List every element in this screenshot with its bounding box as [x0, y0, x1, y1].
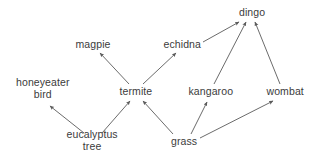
node-label: dingo — [239, 6, 265, 18]
node-label-line2: tree — [67, 141, 118, 153]
edge-grass-to-wombat — [200, 101, 273, 138]
edge-kangaroo-to-dingo — [214, 22, 246, 84]
node-magpie[interactable]: magpie — [76, 39, 111, 51]
node-eucalyptus-tree[interactable]: eucalyptustree — [67, 129, 118, 153]
edge-termite-to-magpie — [100, 53, 129, 84]
edge-wombat-to-dingo — [255, 22, 280, 84]
node-label: kangaroo — [189, 85, 234, 97]
node-label: termite — [120, 85, 153, 97]
node-label: echidna — [164, 38, 201, 50]
node-wombat[interactable]: wombat — [267, 86, 304, 98]
node-echidna[interactable]: echidna — [164, 39, 201, 51]
node-label-line2: bird — [16, 89, 70, 101]
node-grass[interactable]: grass — [171, 136, 197, 148]
node-dingo[interactable]: dingo — [239, 7, 265, 19]
edge-grass-to-kangaroo — [191, 102, 207, 134]
food-web-diagram: magpieechidnadingohoneyeaterbirdtermitek… — [0, 0, 316, 163]
node-label: grass — [171, 135, 197, 147]
node-termite[interactable]: termite — [120, 86, 153, 98]
node-label: honeyeater — [16, 76, 70, 88]
edge-termite-to-echidna — [143, 53, 176, 84]
node-kangaroo[interactable]: kangaroo — [189, 86, 234, 98]
node-honeyeater-bird[interactable]: honeyeaterbird — [16, 77, 70, 101]
node-label: wombat — [267, 85, 304, 97]
node-label: eucalyptus — [67, 128, 118, 140]
node-label: magpie — [76, 38, 111, 50]
edge-grass-to-termite — [143, 101, 173, 134]
edge-echidna-to-dingo — [203, 22, 239, 42]
